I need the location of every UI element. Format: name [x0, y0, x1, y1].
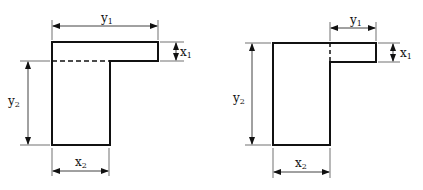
right-y1-label: y1: [349, 13, 362, 28]
right-x1-label: x1: [400, 46, 412, 61]
left-x1-label: x1: [180, 45, 192, 60]
right-y2-label: y2: [232, 91, 245, 106]
right-shape-outline: [273, 43, 376, 145]
left-y2-label: y2: [7, 94, 20, 109]
left-figure: y1 x1 y2 x2: [7, 11, 192, 176]
left-x2-label: x2: [75, 155, 87, 170]
l-section-diagrams: y1 x1 y2 x2 y1 x1 y2: [0, 0, 423, 190]
right-figure: y1 x1 y2 x2: [232, 13, 412, 178]
left-shape-outline: [52, 42, 158, 145]
right-x2-label: x2: [295, 156, 307, 171]
left-y1-label: y1: [100, 11, 113, 26]
